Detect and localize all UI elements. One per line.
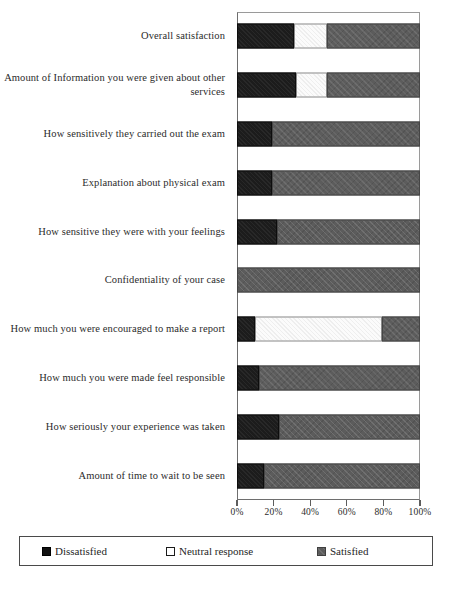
bar-segment-satisfied [279, 414, 420, 439]
x-axis-tick-label: 20% [254, 507, 294, 517]
x-axis-ticks [237, 500, 420, 507]
bar-segment-satisfied [272, 170, 420, 195]
bar-segment-dissatisfied [237, 463, 264, 488]
stacked-bar [237, 317, 420, 342]
bar-row [237, 207, 420, 256]
bar-segment-satisfied [382, 317, 420, 342]
bar-segment-dissatisfied [237, 365, 259, 390]
bar-row [237, 402, 420, 451]
stacked-bar [237, 365, 420, 390]
x-axis-tick [346, 500, 347, 506]
bar-segment-dissatisfied [237, 414, 279, 439]
bar-segment-satisfied [327, 24, 420, 49]
legend-swatch-neutral-icon [166, 547, 175, 556]
stacked-bar-chart: Overall satisfaction Amount of Informati… [0, 0, 453, 609]
bar-segment-satisfied [272, 121, 420, 146]
bar-segment-dissatisfied [237, 73, 296, 98]
bar-rows [237, 12, 420, 500]
stacked-bar [237, 268, 420, 293]
x-axis-tick [273, 500, 274, 506]
category-label: How much you were encouraged to make a r… [0, 305, 232, 354]
legend-swatch-satisfied-icon [317, 547, 326, 556]
legend-item-neutral-response: Neutral response [166, 545, 253, 557]
bar-segment-satisfied [259, 365, 420, 390]
stacked-bar [237, 219, 420, 244]
stacked-bar [237, 73, 420, 98]
stacked-bar [237, 463, 420, 488]
x-axis-tick [310, 500, 311, 506]
bar-segment-dissatisfied [237, 170, 272, 195]
bar-segment-satisfied [327, 73, 420, 98]
category-label: Overall satisfaction [0, 12, 232, 61]
x-axis-tick-labels: 0%20%40%60%80%100% [222, 507, 435, 521]
category-label: Amount of Information you were given abo… [0, 61, 232, 110]
legend-label: Neutral response [179, 545, 253, 557]
bar-row [237, 61, 420, 110]
bar-segment-satisfied [237, 268, 420, 293]
stacked-bar [237, 24, 420, 49]
legend-label: Dissatisfied [55, 545, 107, 557]
x-axis-tick-label: 0% [217, 507, 257, 517]
category-label: Confidentiality of your case [0, 256, 232, 305]
bar-row [237, 12, 420, 61]
x-axis-tick [236, 500, 237, 506]
bar-row [237, 256, 420, 305]
stacked-bar [237, 414, 420, 439]
x-axis-tick-label: 60% [327, 507, 367, 517]
category-label: How sensitive they were with your feelin… [0, 207, 232, 256]
bar-segment-neutral [294, 24, 327, 49]
bar-segment-dissatisfied [237, 219, 277, 244]
bar-segment-dissatisfied [237, 317, 255, 342]
legend-swatch-dissatisfied-icon [42, 547, 51, 556]
bar-row [237, 158, 420, 207]
x-axis-tick [419, 500, 420, 506]
x-axis-tick-label: 40% [290, 507, 330, 517]
legend-item-satisfied: Satisfied [317, 545, 369, 557]
bar-row [237, 354, 420, 403]
plot-area [237, 12, 420, 500]
bar-segment-neutral [296, 73, 327, 98]
category-label: How much you were made feel responsible [0, 354, 232, 403]
stacked-bar [237, 170, 420, 195]
bar-segment-dissatisfied [237, 24, 294, 49]
x-axis-tick-label: 80% [363, 507, 403, 517]
bar-row [237, 305, 420, 354]
legend-item-dissatisfied: Dissatisfied [42, 545, 107, 557]
stacked-bar [237, 121, 420, 146]
bar-row [237, 451, 420, 500]
x-axis-tick [383, 500, 384, 506]
bar-segment-satisfied [277, 219, 420, 244]
category-label: How sensitively they carried out the exa… [0, 110, 232, 159]
category-axis-labels: Overall satisfaction Amount of Informati… [0, 12, 232, 500]
bar-row [237, 110, 420, 159]
chart-legend: Dissatisfied Neutral response Satisfied [19, 536, 433, 566]
bar-segment-satisfied [264, 463, 420, 488]
bar-segment-dissatisfied [237, 121, 272, 146]
category-label: Amount of time to wait to be seen [0, 451, 232, 500]
category-label: Explanation about physical exam [0, 158, 232, 207]
bar-segment-neutral [255, 317, 381, 342]
category-label: How seriously your experience was taken [0, 402, 232, 451]
x-axis-tick-label: 100% [400, 507, 440, 517]
legend-label: Satisfied [330, 545, 369, 557]
